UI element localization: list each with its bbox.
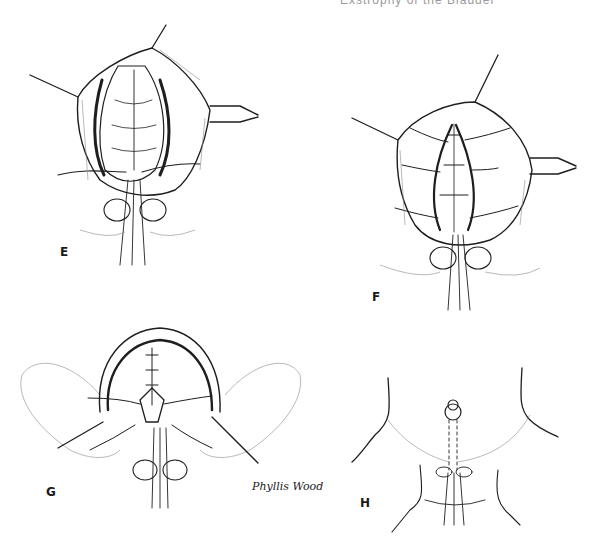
- panel-label-g: G: [46, 485, 56, 499]
- panel-f: F: [340, 40, 594, 330]
- panel-e: E: [0, 0, 300, 280]
- panel-g-illustration: [0, 300, 330, 549]
- panel-label-h: H: [360, 496, 370, 510]
- panel-e-illustration: [0, 0, 300, 280]
- panel-label-e: E: [60, 245, 68, 259]
- header-text-cut: Exstrophy of the Bladder: [340, 0, 495, 7]
- panel-g: G Phyllis Wood: [0, 300, 330, 549]
- panel-label-f: F: [372, 290, 380, 304]
- panel-h: H: [330, 340, 594, 549]
- panel-f-illustration: [340, 40, 594, 330]
- artist-signature: Phyllis Wood: [252, 480, 323, 493]
- panel-h-illustration: [330, 340, 594, 549]
